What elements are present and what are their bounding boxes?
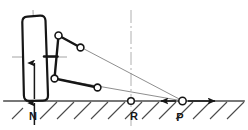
label-p: P [176,111,183,123]
diagram-canvas: N R P [0,0,248,130]
upper-inner-joint [55,32,62,39]
ground-group [4,101,244,119]
lower-outer-joint [94,84,101,91]
wheel-group [22,16,48,101]
lower-inner-joint [51,75,58,82]
labels-group: N R P [29,110,184,123]
upper-outer-joint [77,44,84,51]
wheel-outline [22,16,48,101]
label-r: R [130,110,138,122]
ground-hatching [12,102,244,119]
lower-control-arm [55,79,98,88]
construction-lines-group [55,36,184,102]
roll-center-reference-point-r [128,98,135,105]
instantaneous-center-point-p [179,97,186,104]
force-arrows-group [34,63,215,125]
suspension-diagram-figure: N R P [0,0,248,130]
label-n: N [29,110,37,122]
